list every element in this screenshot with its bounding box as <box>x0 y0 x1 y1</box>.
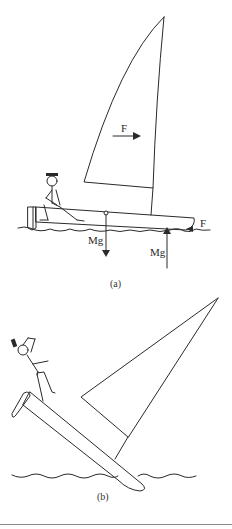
caption-a: (a) <box>110 278 121 290</box>
label-buoyancy: Mg <box>150 246 166 258</box>
sail-b <box>81 298 218 437</box>
transom-b <box>12 392 30 417</box>
caption-b: (b) <box>97 491 109 503</box>
sailor-b <box>11 338 55 401</box>
physics-diagram: Mg Mg F F (a) <box>0 0 232 529</box>
water-b <box>12 474 196 478</box>
label-keel-force: F <box>200 217 206 229</box>
panel-a: Mg Mg F F (a) <box>18 17 210 290</box>
panel-b: (b) <box>11 298 218 503</box>
sail-a <box>84 17 164 188</box>
transom-a <box>28 207 36 230</box>
sailor-a <box>40 173 84 221</box>
label-sail-force: F <box>121 122 127 134</box>
hull-b <box>23 392 145 491</box>
bottom-rule <box>0 524 232 525</box>
mast-b <box>115 437 128 459</box>
mast-a <box>151 188 153 215</box>
center-of-mass <box>104 211 108 215</box>
hull-a <box>36 207 194 230</box>
water-a <box>18 227 210 232</box>
label-weight: Mg <box>88 234 104 246</box>
